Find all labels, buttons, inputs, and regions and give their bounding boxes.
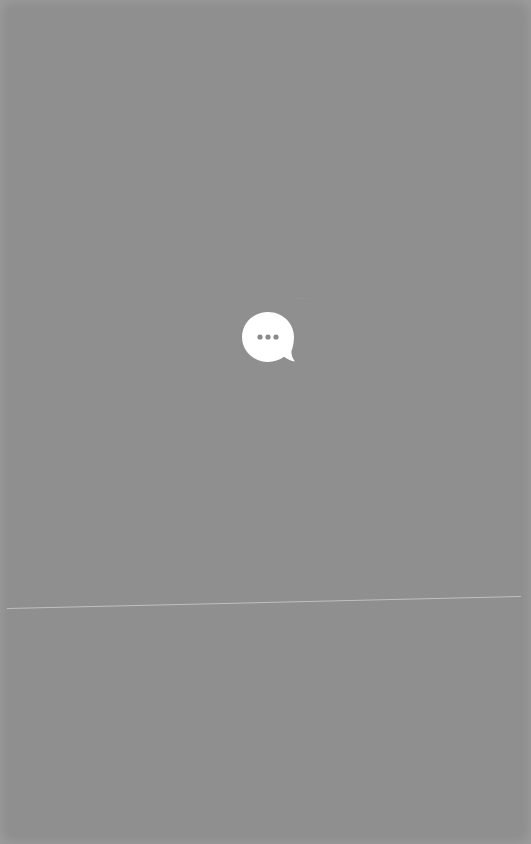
chat-bubble-ellipsis-icon <box>241 311 295 363</box>
app-screen: ... <box>0 0 531 844</box>
dot-3 <box>273 334 278 339</box>
loading-overlay <box>8 8 523 836</box>
dot-1 <box>257 334 262 339</box>
loading-bubble-graphic <box>241 311 295 363</box>
faint-background-text: ... <box>298 289 308 301</box>
dot-2 <box>265 334 270 339</box>
